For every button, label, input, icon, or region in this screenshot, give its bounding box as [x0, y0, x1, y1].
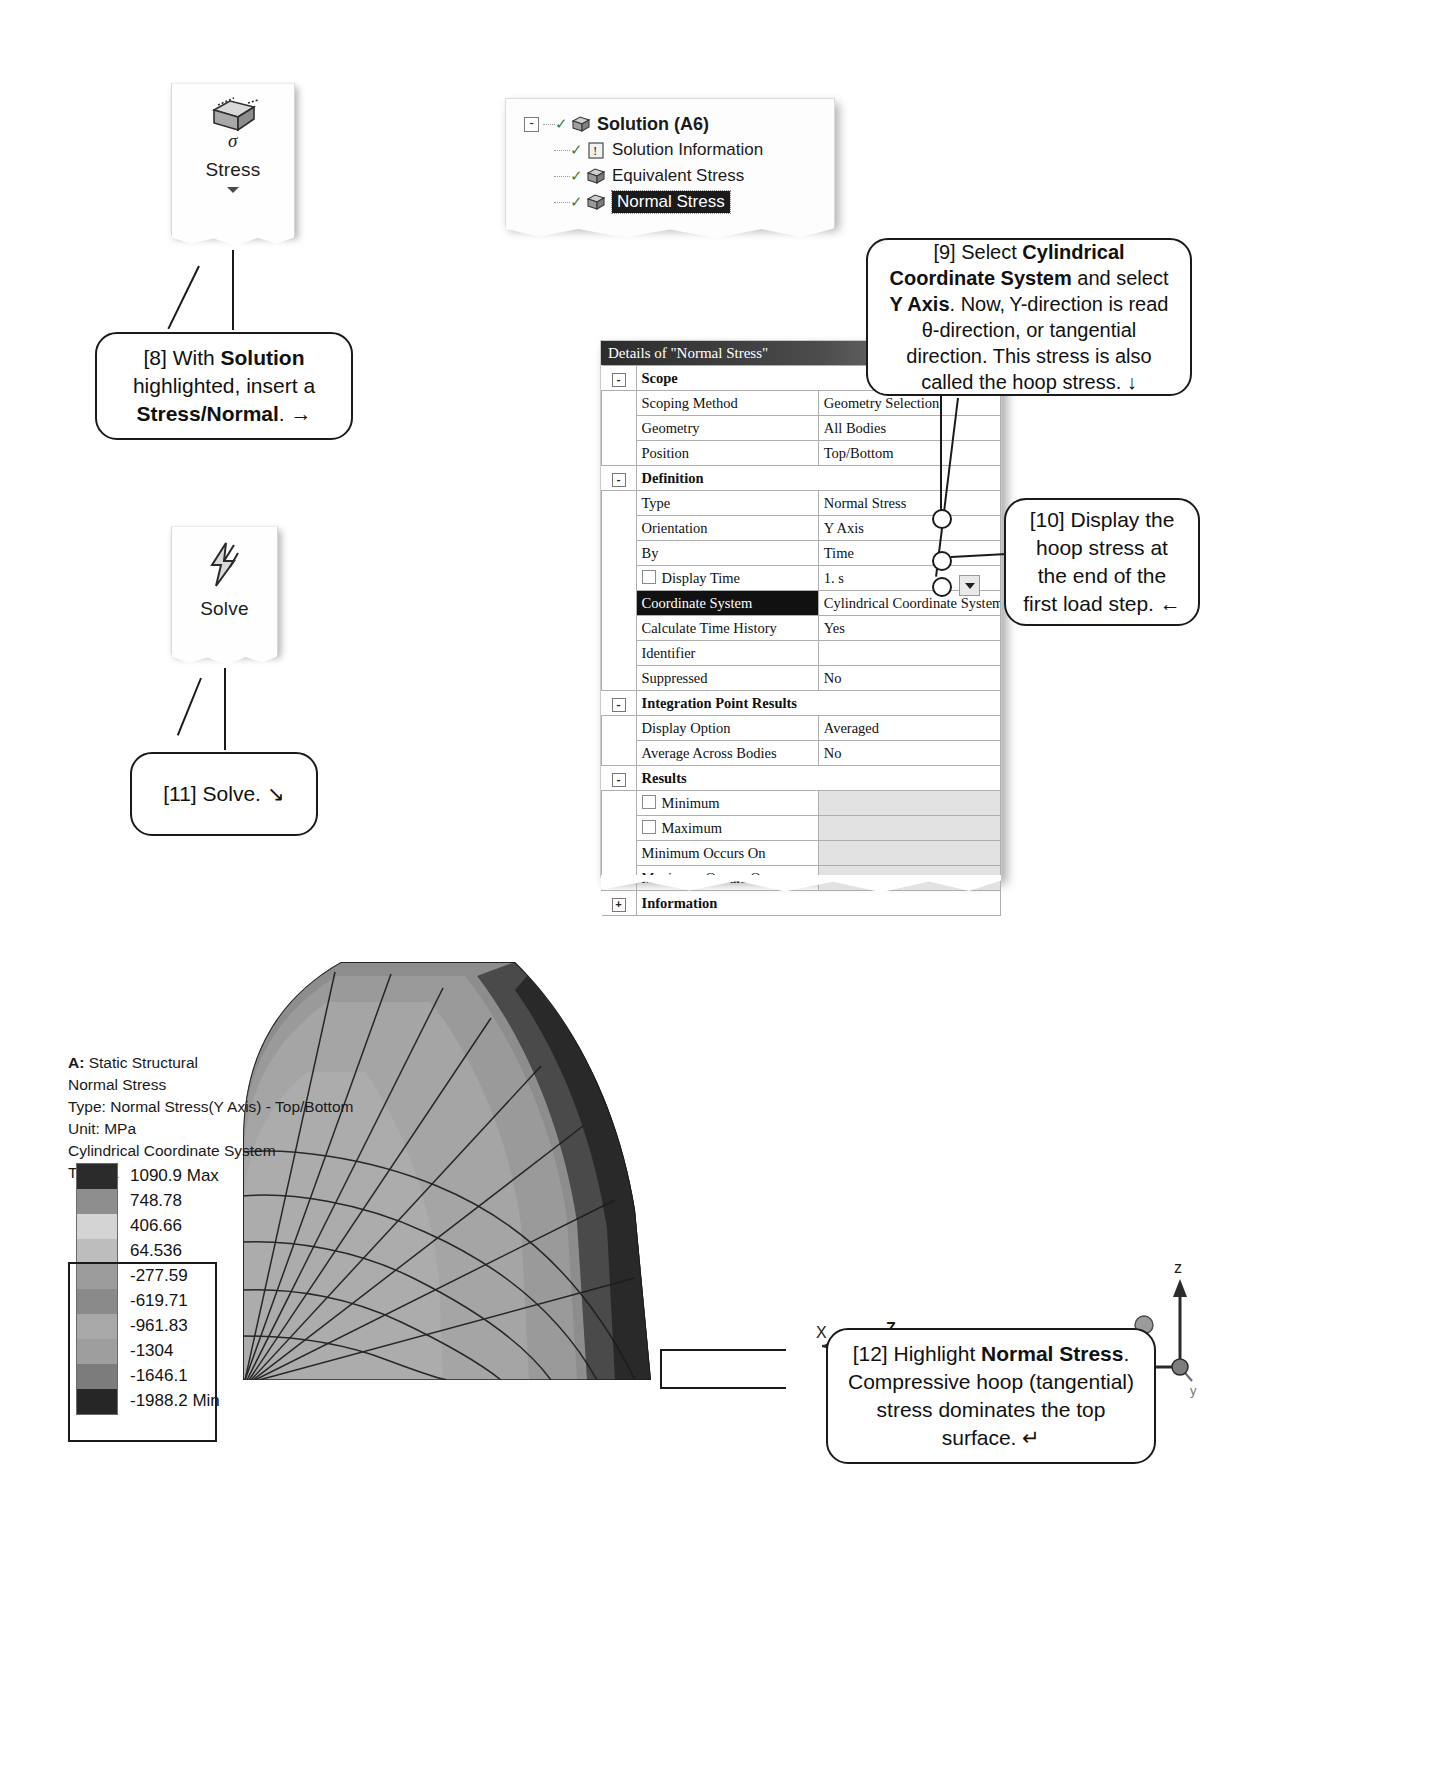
property-name[interactable]: Suppressed — [636, 666, 818, 691]
row-gutter — [602, 716, 637, 741]
property-name[interactable]: Coordinate System — [636, 591, 818, 616]
check-mark-icon: ✓ — [570, 167, 583, 185]
details-row[interactable]: Minimum — [602, 791, 1001, 816]
ribbon-button-stress-label: Stress — [205, 159, 260, 181]
group-expander-definition[interactable]: - — [602, 466, 637, 491]
result-header-line-1: A: Static Structural — [68, 1052, 353, 1074]
property-value[interactable]: Averaged — [818, 716, 1000, 741]
legend-value: 748.78 — [130, 1188, 220, 1213]
property-value[interactable]: Normal Stress — [818, 491, 1000, 516]
legend-value: 1090.9 Max — [130, 1163, 220, 1188]
property-name[interactable]: Display Option — [636, 716, 818, 741]
stress-result-icon — [585, 192, 607, 212]
property-name[interactable]: Geometry — [636, 416, 818, 441]
callout-9: [9] Select Cylindrical Coordinate System… — [866, 238, 1192, 396]
property-name[interactable]: Display Time — [636, 566, 818, 591]
leader-line-callout-12b — [660, 1349, 662, 1389]
group-expander-integration-point-results[interactable]: - — [602, 691, 637, 716]
details-row[interactable]: SuppressedNo — [602, 666, 1001, 691]
property-name[interactable]: Position — [636, 441, 818, 466]
property-name[interactable]: Minimum — [636, 791, 818, 816]
torn-paper-edge — [172, 232, 294, 248]
anchor-dot-coordinate-system — [932, 577, 952, 597]
tree-item-solution-information[interactable]: ✓ ! Solution Information — [524, 137, 834, 163]
property-value[interactable] — [818, 641, 1000, 666]
property-value[interactable]: Time — [818, 541, 1000, 566]
property-name[interactable]: Orientation — [636, 516, 818, 541]
triad-label-y: y — [1190, 1383, 1197, 1398]
details-row[interactable]: Display OptionAveraged — [602, 716, 1001, 741]
stress-cube-icon: σ — [200, 94, 266, 155]
group-expander-scope[interactable]: - — [602, 366, 637, 391]
details-row[interactable]: +Information — [602, 891, 1001, 916]
anchor-dot-orientation — [932, 509, 952, 529]
ribbon-button-stress[interactable]: σ Stress — [171, 83, 295, 235]
details-row[interactable]: Identifier — [602, 641, 1001, 666]
property-value[interactable]: No — [818, 741, 1000, 766]
row-gutter — [602, 816, 637, 841]
property-name[interactable]: Type — [636, 491, 818, 516]
legend-value: 406.66 — [130, 1213, 220, 1238]
legend-value: 64.536 — [130, 1238, 220, 1263]
property-value[interactable]: All Bodies — [818, 416, 1000, 441]
triad-label-x: X — [816, 1324, 827, 1341]
details-row[interactable]: Maximum — [602, 816, 1001, 841]
group-label: Information — [636, 891, 1001, 916]
svg-text:σ: σ — [228, 130, 238, 150]
callout-10: [10] Display the hoop stress at the end … — [1004, 498, 1200, 626]
property-name[interactable]: Identifier — [636, 641, 818, 666]
leader-line-callout-9 — [940, 396, 942, 514]
property-value[interactable]: Y Axis — [818, 516, 1000, 541]
tree-item-equivalent-stress[interactable]: ✓ Equivalent Stress — [524, 163, 834, 189]
legend-swatch — [77, 1164, 117, 1189]
property-value[interactable] — [818, 841, 1000, 866]
details-row[interactable]: Average Across BodiesNo — [602, 741, 1001, 766]
details-row[interactable]: Calculate Time HistoryYes — [602, 616, 1001, 641]
property-name[interactable]: Scoping Method — [636, 391, 818, 416]
property-name[interactable]: Average Across Bodies — [636, 741, 818, 766]
chevron-down-icon[interactable] — [227, 187, 239, 193]
group-expander-results[interactable]: - — [602, 766, 637, 791]
property-value[interactable]: No — [818, 666, 1000, 691]
expander-icon[interactable]: - — [524, 117, 539, 132]
row-gutter — [602, 666, 637, 691]
triad-label-z: z — [1174, 1259, 1182, 1276]
details-row[interactable]: -Integration Point Results — [602, 691, 1001, 716]
row-gutter — [602, 541, 637, 566]
minus-icon: - — [612, 473, 626, 487]
callout-10-text: [10] Display the hoop stress at the end … — [1020, 506, 1184, 618]
callout-11-text: [11] Solve. ↘ — [146, 780, 302, 808]
tree-item-normal-stress-label: Normal Stress — [612, 191, 730, 213]
property-name[interactable]: Calculate Time History — [636, 616, 818, 641]
svg-text:!: ! — [593, 143, 597, 158]
outline-tree-panel: - ✓ Solution (A6) ✓ ! — [505, 98, 835, 226]
checkbox[interactable] — [642, 570, 656, 584]
checkbox[interactable] — [642, 820, 656, 834]
check-mark-icon: ✓ — [555, 115, 568, 133]
result-header-line-3: Type: Normal Stress(Y Axis) - Top/Bottom — [68, 1096, 353, 1118]
chevron-down-icon — [965, 583, 975, 589]
row-gutter — [602, 416, 637, 441]
property-value[interactable]: Yes — [818, 616, 1000, 641]
minus-icon: - — [612, 698, 626, 712]
torn-paper-edge — [172, 651, 277, 667]
result-header-line-2: Normal Stress — [68, 1074, 353, 1096]
callout-12: [12] Highlight Normal Stress. Compressiv… — [826, 1328, 1156, 1464]
tree-item-solution[interactable]: - ✓ Solution (A6) — [524, 111, 834, 137]
details-row[interactable]: -Results — [602, 766, 1001, 791]
coordinate-system-dropdown-button[interactable] — [959, 575, 980, 596]
checkbox[interactable] — [642, 795, 656, 809]
tree-item-normal-stress[interactable]: ✓ Normal Stress — [524, 189, 834, 215]
legend-highlight-box — [68, 1262, 217, 1442]
tree-item-solution-information-label: Solution Information — [612, 140, 763, 160]
property-name[interactable]: By — [636, 541, 818, 566]
property-name[interactable]: Minimum Occurs On — [636, 841, 818, 866]
property-value[interactable]: Top/Bottom — [818, 441, 1000, 466]
ribbon-button-solve[interactable]: Solve — [171, 526, 278, 654]
row-gutter — [602, 516, 637, 541]
property-value[interactable] — [818, 816, 1000, 841]
group-expander-information[interactable]: + — [602, 891, 637, 916]
property-name[interactable]: Maximum — [636, 816, 818, 841]
property-value[interactable] — [818, 791, 1000, 816]
details-row[interactable]: Minimum Occurs On — [602, 841, 1001, 866]
